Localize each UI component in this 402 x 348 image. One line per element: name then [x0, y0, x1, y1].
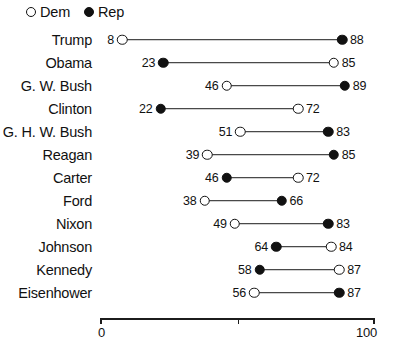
chart-row: G. W. Bush4689 [0, 74, 402, 97]
data-value-label: 83 [336, 217, 350, 230]
open-circle-icon [326, 241, 337, 252]
data-value-label: 64 [254, 240, 268, 253]
open-circle-icon [230, 218, 241, 229]
data-value-label: 23 [142, 56, 156, 69]
chart-row: Kennedy5887 [0, 258, 402, 281]
open-circle-icon [249, 287, 260, 298]
chart-row: Carter4672 [0, 166, 402, 189]
filled-circle-icon [323, 218, 334, 229]
row-plot: 4983 [0, 212, 402, 235]
filled-circle-icon [337, 34, 348, 45]
row-connector [207, 154, 334, 156]
axis-tick-label: 100 [356, 326, 377, 339]
data-value-label: 51 [219, 125, 233, 138]
legend-item-dem: Dem [26, 5, 70, 20]
open-circle-icon [202, 149, 213, 160]
chart-row: Clinton2272 [0, 97, 402, 120]
row-plot: 4689 [0, 74, 402, 97]
legend-label-dem: Dem [40, 5, 70, 20]
chart-legend: Dem Rep [26, 2, 124, 22]
data-value-label: 58 [238, 263, 252, 276]
data-value-label: 49 [213, 217, 227, 230]
dumbbell-chart: Dem Rep Trump888Obama2385G. W. Bush4689C… [0, 0, 402, 348]
filled-circle-icon [221, 172, 232, 183]
filled-circle-icon [329, 149, 340, 160]
chart-row: Reagan3985 [0, 143, 402, 166]
filled-circle-icon [158, 57, 169, 68]
open-circle-icon [117, 34, 128, 45]
chart-row: Johnson6484 [0, 235, 402, 258]
data-value-label: 72 [306, 171, 320, 184]
row-connector [254, 292, 339, 294]
data-value-label: 56 [232, 286, 246, 299]
chart-rows: Trump888Obama2385G. W. Bush4689Clinton22… [0, 28, 402, 304]
data-value-label: 85 [342, 56, 356, 69]
row-connector [163, 62, 334, 64]
open-circle-icon [334, 264, 345, 275]
data-value-label: 46 [205, 79, 219, 92]
data-value-label: 88 [350, 33, 364, 46]
axis-tick [100, 318, 102, 324]
open-circle-icon [235, 126, 246, 137]
row-plot: 6484 [0, 235, 402, 258]
filled-circle-icon [155, 103, 166, 114]
chart-row: Obama2385 [0, 51, 402, 74]
data-value-label: 38 [183, 194, 197, 207]
row-connector [240, 131, 328, 133]
data-value-label: 85 [342, 148, 356, 161]
data-value-label: 84 [339, 240, 353, 253]
row-connector [227, 177, 299, 179]
chart-row: Eisenhower5687 [0, 281, 402, 304]
row-plot: 2385 [0, 51, 402, 74]
open-circle-icon [26, 7, 36, 17]
row-connector [161, 108, 299, 110]
chart-row: Trump888 [0, 28, 402, 51]
data-value-label: 72 [306, 102, 320, 115]
filled-circle-icon [334, 287, 345, 298]
data-value-label: 39 [186, 148, 200, 161]
row-connector [205, 200, 282, 202]
data-value-label: 83 [336, 125, 350, 138]
chart-row: G. H. W. Bush5183 [0, 120, 402, 143]
filled-circle-icon [271, 241, 282, 252]
legend-item-rep: Rep [84, 5, 124, 20]
data-value-label: 46 [205, 171, 219, 184]
x-axis: 0100 [0, 318, 402, 348]
row-plot: 888 [0, 28, 402, 51]
data-value-label: 8 [107, 33, 114, 46]
legend-label-rep: Rep [98, 5, 124, 20]
row-plot: 2272 [0, 97, 402, 120]
chart-row: Nixon4983 [0, 212, 402, 235]
row-plot: 5183 [0, 120, 402, 143]
data-value-label: 22 [139, 102, 153, 115]
row-connector [227, 85, 345, 87]
row-plot: 5687 [0, 281, 402, 304]
filled-circle-icon [254, 264, 265, 275]
open-circle-icon [293, 172, 304, 183]
chart-row: Ford3866 [0, 189, 402, 212]
row-connector [260, 269, 340, 271]
row-plot: 3866 [0, 189, 402, 212]
open-circle-icon [221, 80, 232, 91]
row-connector [276, 246, 331, 248]
filled-circle-icon [323, 126, 334, 137]
row-connector [235, 223, 329, 225]
axis-tick-label: 0 [98, 326, 105, 339]
filled-circle-icon [84, 7, 94, 17]
data-value-label: 87 [347, 263, 361, 276]
filled-circle-icon [340, 80, 351, 91]
row-plot: 3985 [0, 143, 402, 166]
open-circle-icon [329, 57, 340, 68]
axis-tick [238, 318, 240, 324]
data-value-label: 87 [347, 286, 361, 299]
open-circle-icon [199, 195, 210, 206]
filled-circle-icon [276, 195, 287, 206]
data-value-label: 89 [353, 79, 367, 92]
row-plot: 4672 [0, 166, 402, 189]
row-connector [122, 39, 342, 41]
row-plot: 5887 [0, 258, 402, 281]
axis-tick [373, 318, 375, 324]
data-value-label: 66 [290, 194, 304, 207]
open-circle-icon [293, 103, 304, 114]
